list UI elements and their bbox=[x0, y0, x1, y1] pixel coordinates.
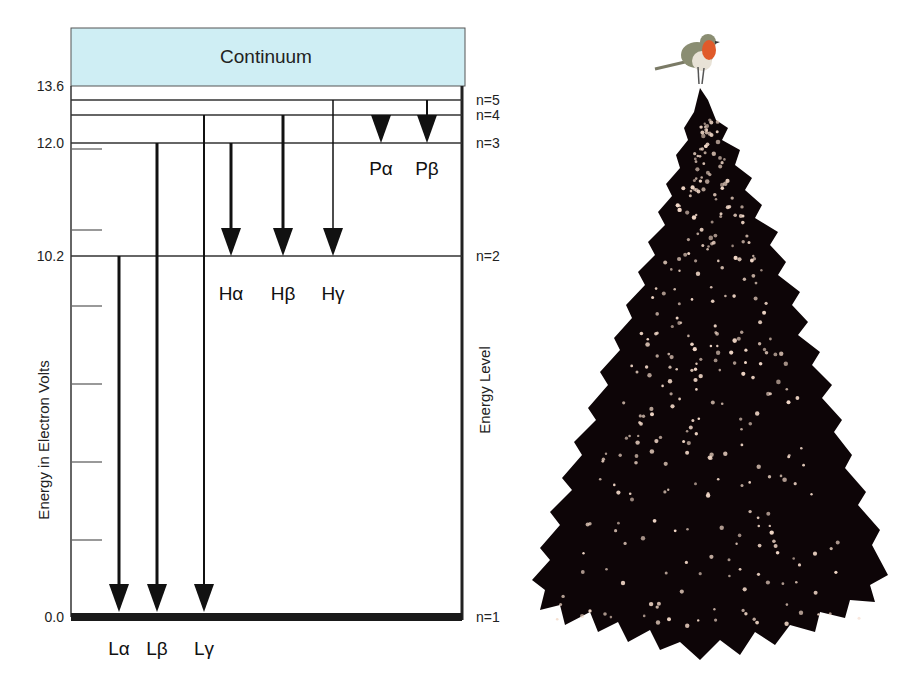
transition-arrow-balmer: Hγ bbox=[321, 100, 345, 304]
energy-level-label: n=3 bbox=[476, 135, 500, 151]
energy-tick-label: 13.6 bbox=[37, 78, 64, 94]
energy-level-label: n=1 bbox=[476, 609, 500, 625]
arrowhead-icon bbox=[371, 115, 391, 143]
arrowhead-icon bbox=[147, 584, 167, 612]
transition-label: Pα bbox=[369, 158, 393, 179]
y-axis-label: Energy in Electron Volts bbox=[35, 360, 52, 519]
arrowhead-icon bbox=[323, 228, 343, 256]
energy-level-diagram: Continuum n=5n=4n=3n=2n=1 13.612.010.20.… bbox=[35, 28, 500, 659]
right-axis-label: Energy Level bbox=[476, 346, 493, 434]
axis-ticks: 13.612.010.20.0 bbox=[37, 78, 102, 625]
ground-level-bar bbox=[71, 613, 462, 621]
transition-arrow-balmer: Hα bbox=[219, 143, 244, 304]
continuum-label: Continuum bbox=[220, 46, 312, 67]
transition-arrow-lyman: Lβ bbox=[146, 143, 168, 659]
robin-bird-icon bbox=[655, 34, 720, 84]
transition-arrow-paschen: Pα bbox=[369, 115, 393, 179]
transition-label: Hβ bbox=[271, 283, 296, 304]
transitions: LαLβLγHαHβHγPαPβ bbox=[108, 100, 439, 659]
energy-level-label: n=2 bbox=[476, 248, 500, 264]
arrowhead-icon bbox=[221, 228, 241, 256]
arrowhead-icon bbox=[194, 584, 214, 612]
transition-label: Lγ bbox=[194, 638, 215, 659]
energy-tick-label: 12.0 bbox=[37, 135, 64, 151]
energy-level-label: n=5 bbox=[476, 92, 500, 108]
transition-label: Hα bbox=[219, 283, 244, 304]
christmas-tree-illustration bbox=[532, 34, 888, 660]
transition-label: Lβ bbox=[146, 638, 168, 659]
energy-level-diagram-figure: Continuum n=5n=4n=3n=2n=1 13.612.010.20.… bbox=[0, 0, 916, 689]
transition-label: Lα bbox=[108, 638, 130, 659]
transition-label: Hγ bbox=[321, 283, 345, 304]
transition-arrow-paschen: Pβ bbox=[415, 100, 439, 179]
arrowhead-icon bbox=[109, 584, 129, 612]
arrowhead-icon bbox=[417, 115, 437, 143]
transition-arrow-lyman: Lγ bbox=[194, 115, 215, 659]
energy-tick-label: 10.2 bbox=[37, 248, 64, 264]
transition-arrow-lyman: Lα bbox=[108, 256, 130, 659]
transition-label: Pβ bbox=[415, 158, 439, 179]
energy-level-label: n=4 bbox=[476, 107, 500, 123]
energy-tick-label: 0.0 bbox=[45, 609, 65, 625]
arrowhead-icon bbox=[273, 228, 293, 256]
